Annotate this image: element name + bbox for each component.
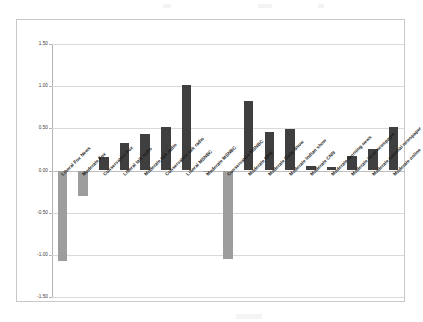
bar <box>161 127 171 170</box>
bar <box>347 156 357 170</box>
y-tick-label: 1.50 <box>39 42 48 47</box>
y-tick-mark <box>49 297 52 298</box>
bar <box>223 171 233 260</box>
bar <box>265 132 275 171</box>
page-artifact-bottom <box>0 306 420 322</box>
bar <box>327 167 337 170</box>
bar <box>389 127 399 171</box>
bar <box>306 166 316 170</box>
bar <box>78 171 88 196</box>
y-tick-label: -1.50 <box>37 295 48 300</box>
y-tick-label: -0.50 <box>37 210 48 215</box>
bar <box>244 101 254 170</box>
plot-frame: 1.501.000.500.00-0.50-1.00-1.50 Liberal … <box>16 19 405 302</box>
bar <box>99 157 109 170</box>
y-tick-label: 0.00 <box>39 168 48 173</box>
bar <box>285 129 295 170</box>
bar <box>140 134 150 170</box>
plot-area: 1.501.000.500.00-0.50-1.00-1.50 Liberal … <box>52 44 404 297</box>
bar <box>58 171 68 261</box>
y-tick-label: -1.00 <box>37 253 48 258</box>
bar <box>120 143 130 171</box>
page-artifact-top <box>0 0 420 18</box>
y-tick-label: 0.50 <box>39 126 48 131</box>
y-tick-label: 1.00 <box>39 84 48 89</box>
bar-series <box>52 44 404 297</box>
gridline <box>52 297 404 298</box>
bar <box>203 171 213 172</box>
bar <box>368 149 378 170</box>
bar <box>182 85 192 170</box>
